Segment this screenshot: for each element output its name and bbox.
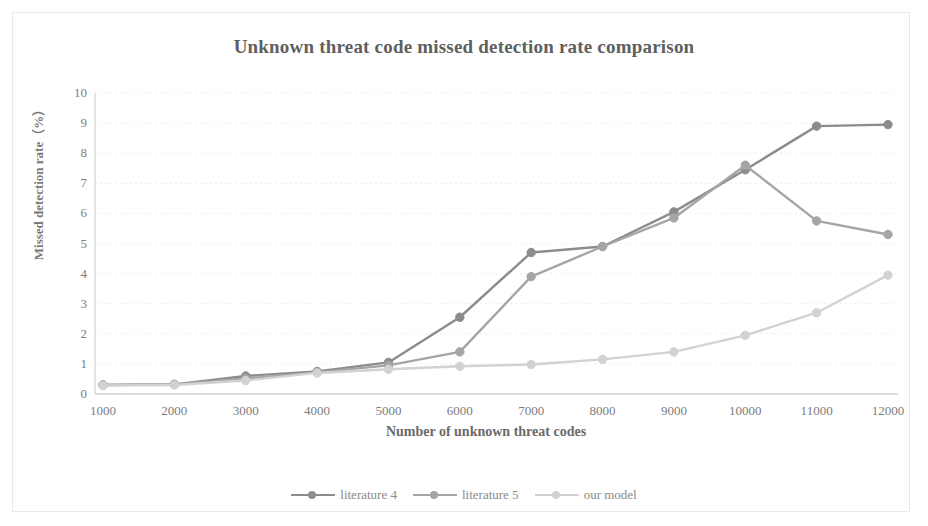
y-tick-label: 1 [53,357,87,370]
series-1 [99,120,892,389]
plot-area: Missed detection rate（%） 012345678910 10… [0,0,928,526]
x-tick-label: 8000 [568,404,638,417]
data-point-marker [99,381,107,389]
series-line [103,275,888,385]
legend-swatch-icon [535,489,579,501]
chart-legend: literature 4literature 5our model [0,487,928,503]
legend-item-1[interactable]: literature 4 [291,487,397,503]
x-tick-label: 5000 [353,404,423,417]
series-2 [99,161,892,389]
x-tick-label: 9000 [639,404,709,417]
data-point-marker [598,242,606,250]
data-point-marker [527,272,535,280]
data-point-marker [884,120,892,128]
x-tick-label: 12000 [853,404,923,417]
y-tick-label: 9 [53,116,87,129]
data-point-marker [812,122,820,130]
data-point-marker [313,369,321,377]
y-tick-label: 8 [53,146,87,159]
series-3 [99,271,892,390]
data-point-marker [670,348,678,356]
legend-swatch-icon [413,489,457,501]
data-point-marker [884,271,892,279]
y-tick-label: 5 [53,237,87,250]
data-point-marker [456,313,464,321]
data-point-marker [242,376,250,384]
data-point-marker [456,362,464,370]
legend-label: our model [584,487,637,503]
y-tick-label: 6 [53,206,87,219]
plot-canvas [0,0,928,526]
x-tick-label: 10000 [710,404,780,417]
x-tick-label: 3000 [211,404,281,417]
x-tick-label: 4000 [282,404,352,417]
legend-label: literature 4 [340,487,397,503]
data-point-marker [741,331,749,339]
data-point-marker [527,248,535,256]
legend-label: literature 5 [462,487,519,503]
x-tick-label: 1000 [68,404,138,417]
legend-item-3[interactable]: our model [535,487,637,503]
y-tick-label: 4 [53,267,87,280]
data-point-marker [741,161,749,169]
series-line [103,125,888,385]
y-tick-label: 2 [53,327,87,340]
data-point-marker [884,230,892,238]
x-tick-label: 6000 [425,404,495,417]
series-line [103,165,888,385]
chart-figure: Unknown threat code missed detection rat… [0,0,928,526]
x-axis-title: Number of unknown threat codes [96,424,876,440]
x-tick-label: 7000 [496,404,566,417]
y-tick-label: 0 [53,387,87,400]
data-point-marker [812,217,820,225]
data-point-marker [527,360,535,368]
data-point-marker [456,348,464,356]
data-point-marker [170,381,178,389]
y-tick-label: 3 [53,297,87,310]
x-tick-label: 11000 [782,404,852,417]
data-point-marker [670,214,678,222]
y-tick-label: 10 [53,86,87,99]
data-point-marker [384,365,392,373]
legend-swatch-icon [291,489,335,501]
x-tick-label: 2000 [139,404,209,417]
y-tick-label: 7 [53,176,87,189]
legend-item-2[interactable]: literature 5 [413,487,519,503]
data-point-marker [812,309,820,317]
data-point-marker [598,355,606,363]
